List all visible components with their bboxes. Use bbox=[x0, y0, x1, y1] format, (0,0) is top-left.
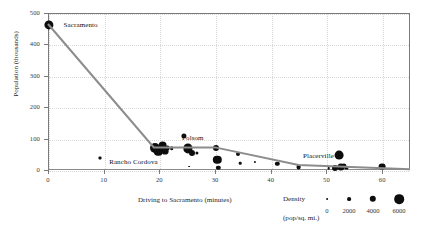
gridline-horizontal bbox=[49, 45, 409, 46]
data-point-label: Placerville bbox=[303, 152, 334, 160]
x-axis-tick-label: 30 bbox=[203, 176, 227, 183]
data-point[interactable] bbox=[195, 151, 198, 154]
x-axis-title: Driving to Sacramento (minutes) bbox=[138, 196, 232, 204]
legend-title: Density bbox=[283, 195, 305, 203]
y-axis-tick-mark bbox=[44, 107, 48, 108]
x-axis-tick-mark bbox=[382, 170, 383, 174]
data-point[interactable] bbox=[213, 155, 221, 163]
x-axis-tick-mark bbox=[271, 170, 272, 174]
legend-size-swatch bbox=[394, 194, 404, 204]
density-legend: Density (pop/sq. mi.) 0200040006000 bbox=[283, 193, 433, 231]
x-axis-tick-label: 60 bbox=[370, 176, 394, 183]
legend-size-swatch bbox=[326, 198, 328, 200]
y-axis-tick-mark bbox=[44, 76, 48, 77]
data-point[interactable] bbox=[213, 145, 219, 151]
gridline-vertical bbox=[327, 14, 328, 169]
gridline-vertical bbox=[383, 14, 384, 169]
data-point[interactable] bbox=[99, 157, 102, 160]
gridline-vertical bbox=[49, 14, 50, 169]
data-point-label: Rancho Cordova bbox=[109, 158, 158, 166]
gridline-horizontal bbox=[49, 14, 409, 15]
data-point[interactable] bbox=[275, 162, 279, 166]
legend-size-value: 4000 bbox=[360, 207, 386, 214]
y-axis-tick-label: 400 bbox=[14, 40, 40, 47]
data-point[interactable] bbox=[239, 162, 242, 165]
gridline-horizontal bbox=[49, 140, 409, 141]
gridline-vertical bbox=[272, 14, 273, 169]
data-point[interactable] bbox=[170, 147, 174, 151]
data-point-label: Folsom bbox=[182, 134, 204, 142]
data-point[interactable] bbox=[216, 166, 220, 170]
x-axis-tick-mark bbox=[48, 170, 49, 174]
legend-size-swatch bbox=[370, 196, 376, 202]
data-point[interactable] bbox=[345, 166, 348, 169]
x-axis-tick-label: 40 bbox=[259, 176, 283, 183]
legend-size-value: 6000 bbox=[386, 207, 412, 214]
gridline-horizontal bbox=[49, 108, 409, 109]
x-axis-tick-mark bbox=[326, 170, 327, 174]
x-axis-tick-label: 10 bbox=[92, 176, 116, 183]
data-point[interactable] bbox=[44, 20, 53, 29]
data-point-label: Sacramento bbox=[64, 21, 98, 29]
data-point[interactable] bbox=[254, 160, 256, 162]
data-point[interactable] bbox=[296, 165, 301, 170]
y-axis-tick-mark bbox=[44, 44, 48, 45]
y-axis-tick-label: 300 bbox=[14, 72, 40, 79]
x-axis-tick-mark bbox=[159, 170, 160, 174]
x-axis-tick-mark bbox=[215, 170, 216, 174]
data-point[interactable] bbox=[335, 151, 344, 160]
x-axis-tick-label: 0 bbox=[36, 176, 60, 183]
data-point[interactable] bbox=[379, 163, 386, 170]
y-axis-tick-label: 0 bbox=[14, 166, 40, 173]
y-axis-tick-label: 500 bbox=[14, 9, 40, 16]
data-point[interactable] bbox=[188, 166, 190, 168]
y-axis-tick-label: 100 bbox=[14, 135, 40, 142]
legend-subtitle: (pop/sq. mi.) bbox=[283, 214, 319, 222]
gridline-horizontal bbox=[49, 77, 409, 78]
population-vs-drive-time-scatter-chart: SacramentoFolsomPlacervilleRancho Cordov… bbox=[0, 0, 440, 233]
plot-area: SacramentoFolsomPlacervilleRancho Cordov… bbox=[48, 13, 410, 170]
x-axis-tick-label: 20 bbox=[147, 176, 171, 183]
y-axis-tick-mark bbox=[44, 13, 48, 14]
legend-size-swatch bbox=[347, 197, 351, 201]
x-axis-tick-label: 50 bbox=[314, 176, 338, 183]
gridline-vertical bbox=[105, 14, 106, 169]
y-axis-tick-label: 200 bbox=[14, 103, 40, 110]
legend-size-value: 2000 bbox=[336, 207, 362, 214]
data-point[interactable] bbox=[236, 152, 240, 156]
data-point[interactable] bbox=[327, 167, 330, 170]
y-axis-tick-mark bbox=[44, 139, 48, 140]
x-axis-tick-mark bbox=[104, 170, 105, 174]
